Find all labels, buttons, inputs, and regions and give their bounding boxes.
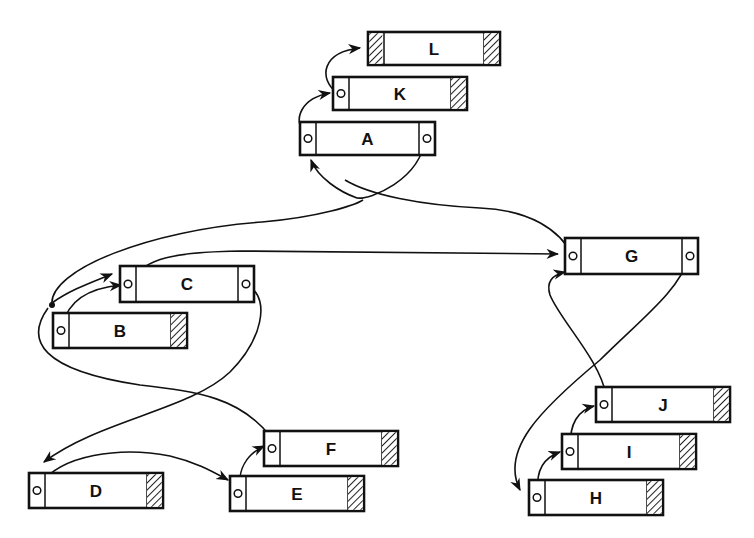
pointer-icon	[57, 327, 65, 335]
node-label: I	[627, 443, 632, 462]
pointer-icon	[33, 487, 41, 495]
node-label: F	[326, 440, 336, 459]
pointer-icon	[569, 252, 577, 260]
pointer-icon	[686, 252, 694, 260]
junction-dot	[49, 302, 55, 308]
node-label: G	[625, 247, 638, 266]
pointer-icon	[337, 90, 345, 98]
node-g: G	[565, 238, 698, 274]
null-link-hatch	[382, 432, 397, 464]
node-h: H	[529, 480, 663, 515]
node-c: C	[120, 266, 254, 302]
null-link-hatch	[714, 388, 729, 420]
node-b: B	[53, 313, 187, 348]
null-link-hatch	[369, 33, 382, 63]
node-label: D	[90, 482, 102, 501]
null-link-hatch	[680, 435, 695, 467]
null-link-hatch	[647, 481, 662, 513]
pointer-icon	[268, 445, 276, 453]
node-label: C	[181, 275, 193, 294]
node-j: J	[596, 387, 730, 422]
pointer-icon	[566, 448, 574, 456]
null-link-hatch	[147, 474, 162, 506]
node-f: F	[264, 431, 398, 466]
pointer-icon	[533, 494, 541, 502]
pointer-icon	[600, 401, 608, 409]
node-label: L	[429, 40, 439, 59]
null-link-hatch	[484, 33, 499, 63]
pointer-icon	[242, 280, 250, 288]
node-i: I	[562, 434, 696, 469]
pointer-icon	[304, 135, 312, 143]
linked-list-diagram: LKACBGJIHFED	[0, 0, 754, 538]
node-label: H	[590, 489, 602, 508]
node-label: A	[361, 130, 373, 149]
node-label: B	[114, 322, 126, 341]
edge-g-left-to-a	[345, 180, 573, 256]
null-link-hatch	[348, 477, 363, 509]
edge-j-left-to-g-left	[549, 272, 606, 395]
pointer-icon	[124, 280, 132, 288]
node-e: E	[230, 476, 364, 511]
node-label: E	[291, 485, 302, 504]
node-a: A	[300, 122, 435, 155]
null-link-hatch	[171, 314, 186, 346]
node-k: K	[333, 77, 467, 110]
node-l: L	[368, 32, 500, 65]
pointer-icon	[234, 490, 242, 498]
null-link-hatch	[451, 78, 466, 108]
node-label: K	[394, 85, 407, 104]
node-d: D	[29, 473, 163, 508]
node-label: J	[658, 396, 667, 415]
nodes-layer: LKACBGJIHFED	[29, 32, 730, 515]
pointer-icon	[423, 135, 431, 143]
